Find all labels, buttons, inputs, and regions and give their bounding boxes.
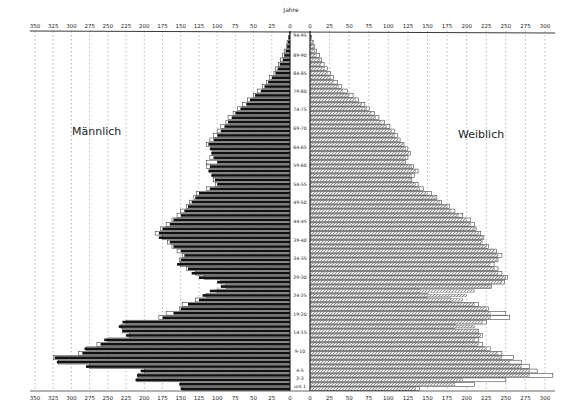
svg-text:79-80: 79-80 [293, 89, 306, 94]
svg-text:175: 175 [157, 23, 168, 29]
svg-text:350: 350 [30, 395, 41, 401]
female-label: Weiblich [458, 128, 504, 141]
svg-text:89-90: 89-90 [293, 53, 306, 58]
svg-text:unt.1: unt.1 [294, 384, 306, 389]
svg-text:74-75: 74-75 [293, 107, 306, 112]
svg-text:125: 125 [403, 23, 414, 29]
svg-text:250: 250 [103, 23, 114, 29]
svg-text:84-85: 84-85 [293, 71, 306, 76]
svg-text:9-10: 9-10 [295, 349, 306, 354]
svg-text:64-65: 64-65 [293, 145, 306, 150]
svg-text:39-40: 39-40 [293, 238, 306, 243]
svg-text:50: 50 [250, 23, 257, 29]
svg-text:175: 175 [442, 23, 453, 29]
svg-text:4-5: 4-5 [296, 368, 304, 373]
svg-text:0: 0 [308, 395, 312, 401]
population-pyramid-chart: 3503503253253003002752752502502252252002… [0, 0, 572, 417]
svg-text:34-35: 34-35 [293, 256, 306, 261]
male-bars [53, 31, 290, 390]
svg-text:250: 250 [501, 23, 512, 29]
svg-text:49-50: 49-50 [293, 200, 306, 205]
svg-text:300: 300 [540, 395, 551, 401]
svg-text:325: 325 [48, 23, 59, 29]
svg-text:200: 200 [461, 395, 472, 401]
svg-text:175: 175 [442, 395, 453, 401]
svg-text:150: 150 [175, 23, 186, 29]
svg-text:200: 200 [139, 23, 150, 29]
svg-text:0: 0 [308, 23, 312, 29]
svg-text:125: 125 [194, 23, 205, 29]
svg-text:275: 275 [520, 23, 531, 29]
male-label: Männlich [72, 125, 121, 138]
svg-text:300: 300 [540, 23, 551, 29]
svg-text:175: 175 [157, 395, 168, 401]
svg-text:225: 225 [481, 23, 492, 29]
svg-text:100: 100 [212, 23, 223, 29]
svg-text:250: 250 [501, 395, 512, 401]
svg-text:24-25: 24-25 [293, 293, 306, 298]
svg-text:275: 275 [84, 395, 95, 401]
svg-text:350: 350 [30, 23, 41, 29]
svg-text:125: 125 [194, 395, 205, 401]
svg-text:100: 100 [383, 23, 394, 29]
svg-text:50: 50 [346, 23, 353, 29]
svg-text:75: 75 [365, 395, 372, 401]
svg-text:0: 0 [288, 23, 292, 29]
svg-text:50: 50 [346, 395, 353, 401]
svg-text:225: 225 [481, 395, 492, 401]
svg-text:300: 300 [66, 23, 77, 29]
svg-text:125: 125 [403, 395, 414, 401]
svg-text:19-20: 19-20 [293, 312, 306, 317]
svg-text:100: 100 [212, 395, 223, 401]
age-axis-title: Jahre [282, 6, 299, 14]
svg-text:2-3: 2-3 [296, 376, 304, 381]
svg-text:25: 25 [326, 23, 333, 29]
svg-text:25: 25 [326, 395, 333, 401]
svg-text:75: 75 [232, 23, 239, 29]
svg-text:29-30: 29-30 [293, 275, 306, 280]
svg-text:25: 25 [268, 23, 275, 29]
svg-text:150: 150 [175, 395, 186, 401]
svg-text:150: 150 [422, 395, 433, 401]
svg-text:200: 200 [139, 395, 150, 401]
svg-text:250: 250 [103, 395, 114, 401]
svg-text:225: 225 [121, 23, 132, 29]
svg-text:54-55: 54-55 [293, 182, 306, 187]
svg-text:14-15: 14-15 [293, 330, 306, 335]
svg-text:150: 150 [422, 23, 433, 29]
female-bars [310, 31, 553, 390]
svg-text:275: 275 [520, 395, 531, 401]
svg-text:325: 325 [48, 395, 59, 401]
svg-text:69-70: 69-70 [293, 126, 306, 131]
svg-text:59-60: 59-60 [293, 163, 306, 168]
svg-text:300: 300 [66, 395, 77, 401]
svg-text:75: 75 [232, 395, 239, 401]
svg-text:225: 225 [121, 395, 132, 401]
svg-text:275: 275 [84, 23, 95, 29]
svg-text:44-45: 44-45 [293, 219, 306, 224]
svg-text:75: 75 [365, 23, 372, 29]
svg-text:50: 50 [250, 395, 257, 401]
svg-text:25: 25 [268, 395, 275, 401]
svg-text:94-95: 94-95 [293, 33, 306, 38]
age-column: 94-9589-9084-8579-8074-7569-7064-6559-60… [290, 31, 310, 391]
svg-text:200: 200 [461, 23, 472, 29]
svg-text:100: 100 [383, 395, 394, 401]
svg-text:0: 0 [288, 395, 292, 401]
